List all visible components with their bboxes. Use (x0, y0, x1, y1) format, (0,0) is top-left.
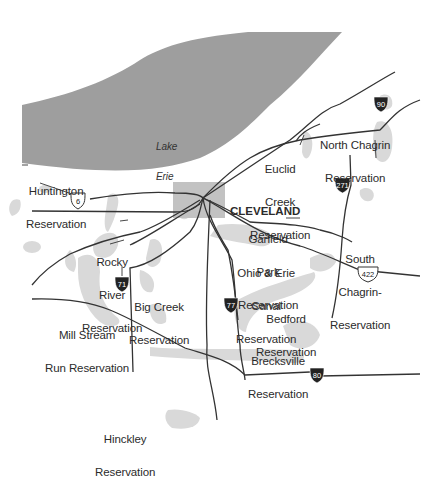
lake-label-line2: Erie (156, 172, 177, 182)
label-line: Bedford (256, 314, 316, 325)
label-line: Chagrin- (330, 287, 390, 298)
label-line: Ohio & Erie (236, 268, 296, 279)
svg-text:90: 90 (377, 100, 385, 109)
svg-text:77: 77 (227, 301, 235, 310)
label-line: North Chagrin (320, 140, 390, 151)
i-90-shield: 90 (374, 97, 388, 112)
i-80-shield: 80 (310, 368, 324, 383)
label-line: Big Creek (129, 302, 189, 313)
label-line: Reservation (330, 320, 390, 331)
label-brecksville-reservation: Brecksville Reservation (248, 334, 308, 411)
label-line: Huntington (26, 186, 86, 197)
label-line: Euclid (250, 164, 310, 175)
label-line: Mill Stream (45, 330, 129, 341)
label-line: Creek (250, 197, 310, 208)
lake-label-line1: Lake (156, 142, 177, 152)
label-hinckley-reservation: Hinckley Reservation (95, 412, 155, 480)
svg-text:80: 80 (313, 371, 321, 380)
label-line: Reservation (320, 173, 390, 184)
label-line: Reservation (95, 467, 155, 478)
label-line: Hinckley (95, 434, 155, 445)
label-line: South (330, 254, 390, 265)
label-huntington-reservation: Huntington Reservation (26, 164, 86, 241)
label-line: Garfield (238, 234, 298, 245)
label-line: Run Reservation (45, 363, 129, 374)
label-south-chagrin-reservation: South Chagrin- Reservation (330, 232, 390, 342)
label-line: Reservation (129, 335, 189, 346)
label-line: Brecksville (248, 356, 308, 367)
label-line: Rocky (82, 257, 142, 268)
lake-erie-label: Lake Erie (156, 122, 177, 192)
label-north-chagrin-reservation: North Chagrin Reservation (320, 118, 390, 195)
label-big-creek-reservation: Big Creek Reservation (129, 280, 189, 357)
label-line: Reservation (26, 219, 86, 230)
label-line: Reservation (248, 389, 308, 400)
label-mill-stream-run-reservation: Mill Stream Run Reservation (45, 308, 129, 385)
